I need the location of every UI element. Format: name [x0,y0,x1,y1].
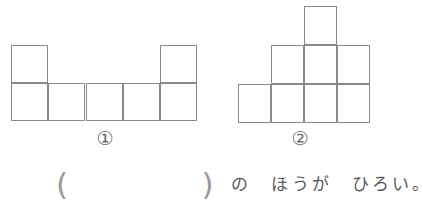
figure-1-label: ① [0,129,210,148]
grid-square [304,45,337,84]
grid-square [11,45,48,83]
grid-square [11,83,48,121]
answer-blank-parentheses[interactable]: ( ) [56,169,215,200]
grid-square [337,84,370,123]
grid-square [271,45,304,84]
figure-1-group[interactable]: ① [0,0,210,160]
grid-square [160,45,197,83]
grid-square [337,45,370,84]
answer-sentence: ( ) の ほうが ひろい。 [0,163,385,205]
grid-square [48,83,85,121]
grid-square [123,83,160,121]
grid-square [160,83,197,121]
figure-2-label: ② [215,129,385,148]
sentence-tail-text: の ほうが ひろい。 [231,176,423,193]
grid-square [304,6,337,45]
grid-square [271,84,304,123]
figure-2-group[interactable]: ② [215,0,385,160]
grid-square [304,84,337,123]
grid-square [238,84,271,123]
grid-square [86,83,123,121]
